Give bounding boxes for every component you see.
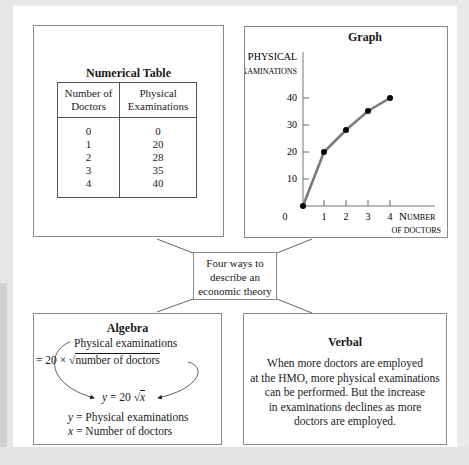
algebra-definition-y: y = Physical examinations (68, 411, 189, 423)
y-ticks: 10 20 30 40 (287, 92, 309, 184)
x-axis-label-line1: NUMBER (399, 210, 436, 222)
line-chart: PHYSICAL EXAMINATIONS 10 20 30 40 0 1 2 … (245, 27, 449, 239)
svg-text:2: 2 (344, 211, 349, 222)
svg-text:4: 4 (388, 211, 393, 222)
svg-text:10: 10 (287, 173, 297, 184)
left-arrow-icon (54, 342, 94, 398)
verbal-title: Verbal (244, 335, 446, 350)
algebra-equation: y = 20 √x (102, 391, 145, 403)
svg-text:0: 0 (283, 211, 288, 222)
svg-text:30: 30 (287, 119, 297, 130)
y-axis-label-line2: EXAMINATIONS (245, 67, 297, 76)
svg-text:20: 20 (287, 146, 297, 157)
numerical-table-title: Numerical Table (34, 66, 223, 81)
y-axis-label-line1: PHYSICAL (248, 50, 297, 62)
svg-text:1: 1 (322, 211, 327, 222)
verbal-box: Verbal When more doctors are employed at… (243, 313, 447, 445)
verbal-description: When more doctors are employed at the HM… (244, 356, 446, 429)
algebra-box: Algebra Physical examinations = 20 × √nu… (33, 313, 222, 445)
table-row: 00 (58, 118, 197, 139)
table-row: 228 (58, 151, 197, 164)
table-row: 440 (58, 177, 197, 198)
numerical-table: Number ofDoctors PhysicalExaminations 00… (57, 82, 197, 198)
center-text-line3: economic theory (194, 284, 276, 298)
svg-text:3: 3 (366, 211, 371, 222)
x-axis-label-line2: OF DOCTORS (392, 226, 441, 235)
header-physical-examinations: PhysicalExaminations (120, 83, 197, 118)
svg-text:40: 40 (287, 92, 297, 103)
data-markers (300, 95, 393, 209)
header-number-of-doctors: Number ofDoctors (58, 83, 120, 118)
center-concept-box: Four ways to describe an economic theory (193, 252, 277, 300)
table-row: 335 (58, 164, 197, 177)
center-text-line1: Four ways to (194, 256, 276, 270)
numerical-table-box: Numerical Table Number ofDoctors Physica… (33, 25, 224, 237)
right-arrow-icon (158, 362, 198, 398)
center-text-line2: describe an (194, 270, 276, 284)
graph-box: Graph PHYSICAL EXAMINATIONS 10 20 30 40 … (244, 26, 448, 238)
algebra-definition-x: x = Number of doctors (68, 425, 172, 437)
x-ticks: 0 1 2 3 4 (283, 200, 393, 222)
data-line (303, 98, 390, 206)
table-row: 120 (58, 138, 197, 151)
